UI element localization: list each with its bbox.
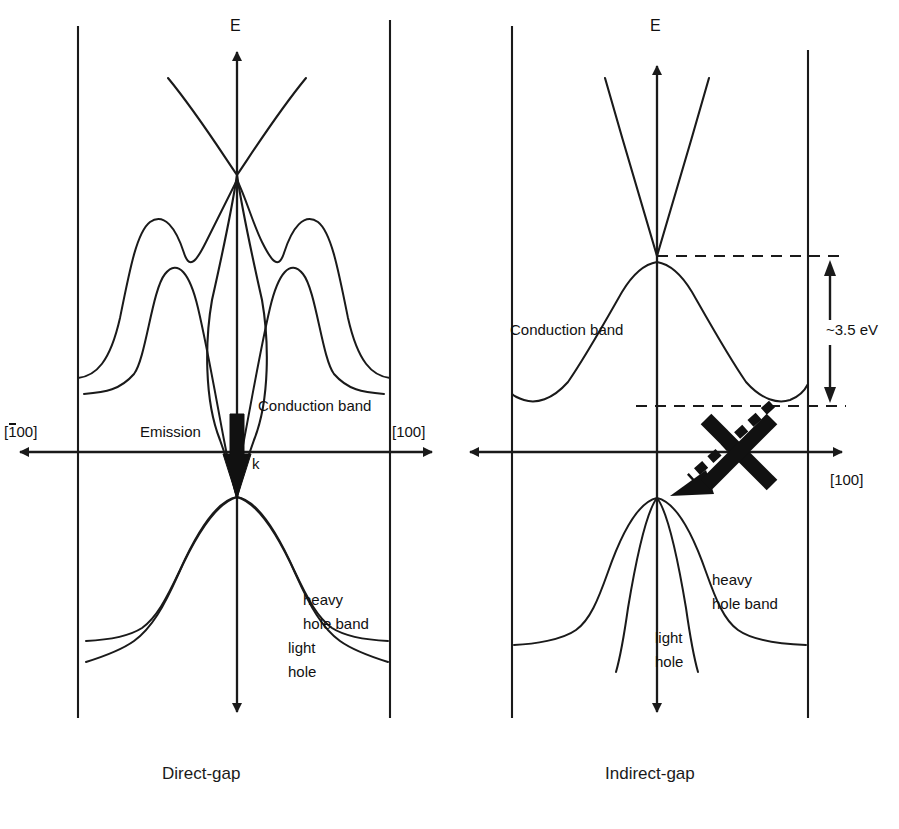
heavy-hole-label-line1-indirect: heavy <box>712 572 752 588</box>
heavy-hole-label-line2-indirect: hole band <box>712 596 778 612</box>
light-hole-label-line1-indirect: light <box>655 630 683 646</box>
overbar-one: 1 <box>8 424 16 440</box>
conduction-band-label-indirect: Conduction band <box>510 322 623 338</box>
direction-label-positive-direct: [100] <box>392 424 425 440</box>
energy-axis-label-indirect: E <box>650 18 661 35</box>
conduction-band-label-direct: Conduction band <box>258 398 371 414</box>
direction-label-negative-direct: [100] <box>4 424 37 440</box>
figure-background <box>0 0 899 829</box>
light-hole-label-line1-direct: light <box>288 640 316 656</box>
light-hole-label-line2-direct: hole <box>288 664 316 680</box>
emission-label-direct: Emission <box>140 424 201 440</box>
momentum-axis-label-direct: k <box>252 456 260 472</box>
heavy-hole-label-line1-direct: heavy <box>303 592 343 608</box>
band-gap-label-indirect: ~3.5 eV <box>826 322 878 338</box>
caption-direct-gap: Direct-gap <box>162 764 240 784</box>
energy-axis-label-direct: E <box>230 18 241 35</box>
heavy-hole-label-line2-direct: hole band <box>303 616 369 632</box>
bracket-rest: 00] <box>17 423 38 440</box>
caption-indirect-gap: Indirect-gap <box>605 764 695 784</box>
direction-label-positive-indirect: [100] <box>830 472 863 488</box>
light-hole-label-line2-indirect: hole <box>655 654 683 670</box>
band-structure-figure: E k [100] [100] Conduction band Emission… <box>0 0 899 829</box>
band-diagram-svg <box>0 0 899 829</box>
